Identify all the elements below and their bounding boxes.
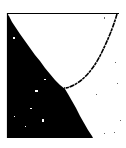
scan-speck [120, 120, 121, 121]
scan-speck [96, 94, 97, 95]
scan-hole [44, 79, 46, 80]
scan-speck [114, 132, 115, 133]
scan-speck [104, 17, 105, 19]
diagram-figure [0, 0, 126, 148]
scan-hole [25, 126, 26, 127]
scan-speck [115, 62, 116, 63]
scan-speck [117, 83, 118, 84]
scan-hole [13, 37, 15, 39]
scan-hole [14, 116, 15, 117]
scan-hole [42, 119, 44, 122]
scan-hole [30, 108, 32, 109]
scan-speck [104, 133, 105, 134]
scan-hole [35, 90, 38, 92]
